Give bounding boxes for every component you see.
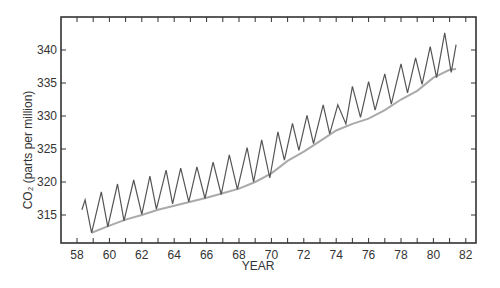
x-axis-label: YEAR	[242, 259, 275, 273]
plot-border	[61, 17, 476, 243]
x-tick-label: 60	[103, 248, 117, 262]
x-tick-label: 72	[297, 248, 311, 262]
y-tick-label: 335	[37, 76, 57, 90]
x-tick-label: 76	[362, 248, 376, 262]
x-tick-label: 78	[394, 248, 408, 262]
x-tick-label: 66	[200, 248, 214, 262]
y-tick-label: 330	[37, 109, 57, 123]
data-series	[82, 33, 456, 233]
x-tick-label: 74	[330, 248, 344, 262]
y-axis-ticks: 315320325330335340	[37, 43, 476, 222]
x-tick-label: 64	[168, 248, 182, 262]
co2-chart: 58606264666870727476788082 3153203253303…	[0, 0, 500, 288]
x-tick-label: 82	[459, 248, 473, 262]
y-tick-label: 320	[37, 175, 57, 189]
x-axis-ticks: 58606264666870727476788082	[70, 17, 472, 262]
y-tick-label: 325	[37, 142, 57, 156]
trend-line	[92, 69, 457, 233]
y-tick-label: 340	[37, 43, 57, 57]
y-axis-label: CO₂ (parts per million)	[21, 91, 35, 210]
plot-frame	[61, 17, 476, 243]
seasonal-line	[82, 33, 456, 233]
x-tick-label: 58	[70, 248, 84, 262]
y-tick-label: 315	[37, 208, 57, 222]
x-tick-label: 80	[427, 248, 441, 262]
x-tick-label: 62	[135, 248, 149, 262]
